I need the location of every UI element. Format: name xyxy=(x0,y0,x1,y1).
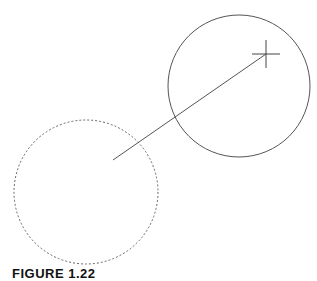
figure-caption: FIGURE 1.22 xyxy=(12,266,96,281)
crosshair-icon xyxy=(252,40,280,68)
dashed-circle xyxy=(14,120,158,264)
solid-circle xyxy=(168,15,310,157)
vector-line xyxy=(113,54,266,160)
